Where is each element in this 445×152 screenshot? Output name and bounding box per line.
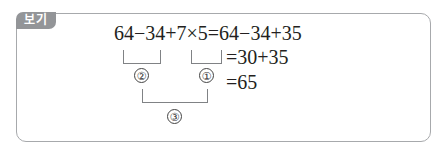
step-2-label: ② (134, 68, 149, 83)
equation-line-1: 64−34+7×5=64−34+35 (114, 22, 302, 44)
bracket-step-2 (123, 50, 161, 64)
equation-line-3: =65 (226, 71, 257, 93)
example-badge: 보기 (16, 12, 56, 29)
equation-line-2: =30+35 (226, 46, 289, 68)
step-3-label: ③ (167, 109, 182, 124)
step-1-label: ① (199, 68, 214, 83)
bracket-step-3 (142, 89, 208, 103)
bracket-step-1 (191, 50, 222, 64)
